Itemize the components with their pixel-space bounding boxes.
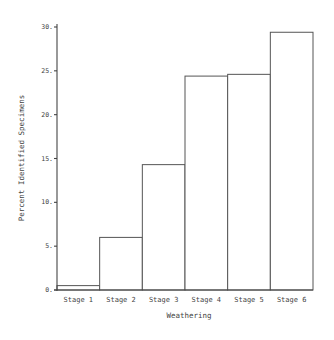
y-tick-label: 0. [45, 286, 53, 294]
x-axis-category-labels: Stage 1Stage 2Stage 3Stage 4Stage 5Stage… [64, 296, 307, 304]
bar-chart: 0.5.10.15.20.25.30. Stage 1Stage 2Stage … [0, 0, 334, 340]
y-axis-title: Percent Identified Specimens [17, 95, 26, 221]
bar-stage-3 [142, 165, 185, 290]
y-tick-label: 30. [41, 23, 53, 31]
bar-stage-2 [100, 237, 143, 290]
y-axis-ticks: 0.5.10.15.20.25.30. [41, 23, 57, 294]
x-category-label: Stage 6 [277, 296, 307, 304]
x-category-label: Stage 2 [106, 296, 136, 304]
y-tick-label: 20. [41, 111, 53, 119]
bar-stage-6 [270, 32, 313, 290]
y-tick-label: 15. [41, 155, 53, 163]
x-category-label: Stage 1 [64, 296, 94, 304]
bars [57, 32, 313, 290]
y-tick-label: 25. [41, 67, 53, 75]
x-category-label: Stage 4 [192, 296, 222, 304]
y-tick-label: 10. [41, 198, 53, 206]
x-category-label: Stage 3 [149, 296, 179, 304]
x-axis-title: Weathering [166, 311, 211, 320]
y-tick-label: 5. [45, 242, 53, 250]
bar-stage-1 [57, 286, 100, 290]
bar-stage-4 [185, 76, 228, 290]
bar-stage-5 [228, 74, 271, 290]
x-category-label: Stage 5 [234, 296, 264, 304]
